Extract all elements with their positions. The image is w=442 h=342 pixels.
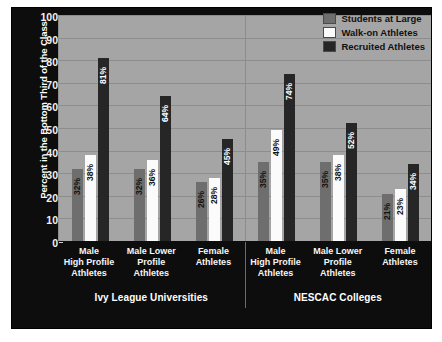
bar-group: 32%38%81% bbox=[72, 15, 109, 241]
bar-group: 35%49%74% bbox=[258, 15, 295, 241]
x-axis-category-line: Athletes bbox=[183, 257, 243, 268]
bar[interactable]: 64% bbox=[160, 96, 171, 241]
chart-legend: Students at LargeWalk-on AthletesRecruit… bbox=[323, 13, 425, 52]
bar-group: 32%36%64% bbox=[134, 15, 171, 241]
bar[interactable]: 32% bbox=[72, 169, 83, 241]
bar-panel-ivy-league: 32%38%81%32%36%64%26%28%45% bbox=[59, 15, 245, 241]
x-axis-category-label: Male LowerProfileAthletes bbox=[308, 242, 368, 328]
bar[interactable]: 74% bbox=[284, 74, 295, 241]
bar-value-label: 26% bbox=[197, 187, 206, 213]
bar[interactable]: 38% bbox=[333, 155, 344, 241]
legend-item[interactable]: Walk-on Athletes bbox=[323, 27, 425, 38]
legend-label: Walk-on Athletes bbox=[341, 27, 417, 38]
bar[interactable]: 52% bbox=[346, 123, 357, 241]
bar-value-label: 38% bbox=[86, 160, 95, 186]
y-axis-tick-50: 50 bbox=[28, 125, 58, 135]
y-axis-tick-labels: 1009080706050403020100 bbox=[28, 16, 58, 258]
x-axis-category-line: Profile bbox=[121, 257, 181, 268]
y-axis-tick-70: 70 bbox=[28, 80, 58, 90]
y-axis-tick-40: 40 bbox=[28, 148, 58, 158]
legend-item[interactable]: Students at Large bbox=[323, 13, 425, 24]
bar-value-label: 64% bbox=[161, 101, 170, 127]
x-axis-category-line: Male Lower bbox=[308, 246, 368, 257]
bar-value-label: 23% bbox=[396, 194, 405, 220]
y-axis-tick-100: 100 bbox=[28, 12, 58, 22]
bar-value-label: 32% bbox=[73, 173, 82, 199]
x-axis-category-label: FemaleAthletes bbox=[183, 242, 243, 328]
x-axis-category-line: Male Lower bbox=[121, 246, 181, 257]
bar[interactable]: 32% bbox=[134, 169, 145, 241]
bar[interactable]: 38% bbox=[85, 155, 96, 241]
y-axis-tick-80: 80 bbox=[28, 57, 58, 67]
legend-swatch-icon bbox=[323, 13, 336, 24]
x-axis-category-line: Profile bbox=[308, 257, 368, 268]
x-axis-category-line: Athletes bbox=[308, 268, 368, 279]
bar-value-label: 74% bbox=[285, 78, 294, 104]
legend-swatch-icon bbox=[323, 41, 336, 52]
x-axis-category-line: Female bbox=[370, 246, 430, 257]
legend-item[interactable]: Recruited Athletes bbox=[323, 41, 425, 52]
x-axis-category-line: High Profile bbox=[59, 257, 119, 268]
bar-value-label: 34% bbox=[409, 169, 418, 195]
bar-value-label: 35% bbox=[259, 166, 268, 192]
bar[interactable]: 35% bbox=[258, 162, 269, 241]
legend-label: Students at Large bbox=[341, 13, 421, 24]
x-axis-category-label: MaleHigh ProfileAthletes bbox=[246, 242, 306, 328]
y-axis-tick-10: 10 bbox=[28, 215, 58, 225]
bar-group: 26%28%45% bbox=[196, 15, 233, 241]
bar[interactable]: 21% bbox=[382, 194, 393, 241]
panel-title-ivy-league: Ivy League Universities bbox=[58, 292, 245, 303]
bar-value-label: 35% bbox=[321, 166, 330, 192]
bar-value-label: 36% bbox=[148, 164, 157, 190]
bar[interactable]: 26% bbox=[196, 182, 207, 241]
bar-value-label: 49% bbox=[272, 135, 281, 161]
bar-value-label: 38% bbox=[334, 160, 343, 186]
bar[interactable]: 28% bbox=[209, 178, 220, 241]
x-axis-category-label: FemaleAthletes bbox=[370, 242, 430, 328]
bar[interactable]: 81% bbox=[98, 58, 109, 241]
y-axis-tick-20: 20 bbox=[28, 193, 58, 203]
x-axis-category-line: Male bbox=[59, 246, 119, 257]
x-axis-category-label: MaleHigh ProfileAthletes bbox=[59, 242, 119, 328]
bar[interactable]: 23% bbox=[395, 189, 406, 241]
bar-value-label: 52% bbox=[347, 128, 356, 154]
x-axis: MaleHigh ProfileAthletesMale LowerProfil… bbox=[58, 242, 431, 328]
bar-value-label: 21% bbox=[383, 198, 392, 224]
bar[interactable]: 35% bbox=[320, 162, 331, 241]
bar-value-label: 28% bbox=[210, 182, 219, 208]
bar[interactable]: 49% bbox=[271, 130, 282, 241]
legend-swatch-icon bbox=[323, 27, 336, 38]
y-axis-tick-0: 0 bbox=[28, 238, 58, 248]
bar[interactable]: 36% bbox=[147, 160, 158, 241]
x-axis-category-line: Athletes bbox=[370, 257, 430, 268]
x-axis-category-line: Athletes bbox=[59, 268, 119, 279]
x-axis-category-line: Athletes bbox=[246, 268, 306, 279]
chart-figure: Percent in the Bottom Third of the Class… bbox=[11, 7, 432, 329]
bar[interactable]: 34% bbox=[408, 164, 419, 241]
x-axis-labels-nescac: MaleHigh ProfileAthletesMale LowerProfil… bbox=[245, 242, 432, 328]
x-axis-labels-ivy-league: MaleHigh ProfileAthletesMale LowerProfil… bbox=[58, 242, 245, 328]
bar-value-label: 32% bbox=[135, 173, 144, 199]
panel-title-nescac: NESCAC Colleges bbox=[245, 292, 432, 303]
x-axis-category-line: High Profile bbox=[246, 257, 306, 268]
bar-value-label: 45% bbox=[223, 144, 232, 170]
x-axis-category-line: Male bbox=[246, 246, 306, 257]
x-axis-category-line: Female bbox=[183, 246, 243, 257]
y-axis-tick-90: 90 bbox=[28, 35, 58, 45]
y-axis-tick-60: 60 bbox=[28, 102, 58, 112]
legend-label: Recruited Athletes bbox=[341, 41, 425, 52]
bar[interactable]: 45% bbox=[222, 139, 233, 241]
bar-value-label: 81% bbox=[99, 62, 108, 88]
x-axis-category-line: Athletes bbox=[121, 268, 181, 279]
x-axis-category-label: Male LowerProfileAthletes bbox=[121, 242, 181, 328]
y-axis-tick-30: 30 bbox=[28, 170, 58, 180]
